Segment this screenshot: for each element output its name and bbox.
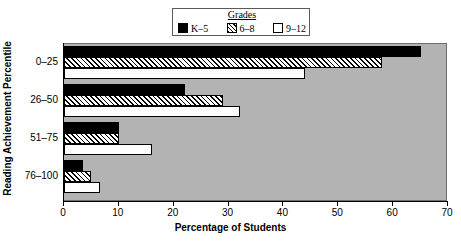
bar bbox=[64, 160, 83, 171]
chart-legend: Grades K–5 6–8 9–12 bbox=[172, 8, 310, 36]
x-tick-mark bbox=[337, 202, 338, 206]
x-tick-mark bbox=[392, 202, 393, 206]
legend-entry-6-8: 6–8 bbox=[227, 23, 255, 34]
x-axis-label: Percentage of Students bbox=[0, 222, 461, 233]
x-tick-label: 20 bbox=[153, 207, 193, 218]
legend-swatch-solid-icon bbox=[178, 23, 188, 33]
bar bbox=[64, 171, 91, 182]
legend-entry-list: K–5 6–8 9–12 bbox=[178, 21, 306, 35]
y-axis-label: Reading Achievement Percentile bbox=[2, 39, 13, 199]
plot-area bbox=[63, 43, 447, 201]
bar-group bbox=[64, 122, 446, 158]
x-tick-mark bbox=[447, 202, 448, 206]
x-tick-label: 30 bbox=[208, 207, 248, 218]
legend-label-9-12: 9–12 bbox=[286, 23, 306, 34]
bar bbox=[64, 106, 240, 117]
bar bbox=[64, 122, 119, 133]
x-tick-label: 0 bbox=[43, 207, 83, 218]
x-tick-label: 70 bbox=[427, 207, 461, 218]
x-tick-label: 50 bbox=[317, 207, 357, 218]
legend-entry-k-5: K–5 bbox=[178, 23, 208, 34]
bar-chart-figure: Grades K–5 6–8 9–12 010203040506070 0–25… bbox=[0, 0, 461, 247]
legend-swatch-hatch-icon bbox=[227, 23, 237, 33]
y-axis-line bbox=[63, 43, 64, 202]
legend-title: Grades bbox=[173, 9, 311, 20]
x-tick-mark bbox=[282, 202, 283, 206]
bar bbox=[64, 68, 305, 79]
bar-group bbox=[64, 84, 446, 120]
legend-label-6-8: 6–8 bbox=[240, 23, 255, 34]
bar bbox=[64, 95, 223, 106]
x-tick-label: 40 bbox=[262, 207, 302, 218]
bar bbox=[64, 182, 100, 193]
bar bbox=[64, 57, 382, 68]
x-tick-mark bbox=[118, 202, 119, 206]
x-tick-mark bbox=[228, 202, 229, 206]
bar bbox=[64, 133, 119, 144]
x-tick-label: 60 bbox=[372, 207, 412, 218]
x-tick-label: 10 bbox=[98, 207, 138, 218]
bar bbox=[64, 144, 152, 155]
x-axis-line bbox=[63, 201, 448, 202]
x-tick-mark bbox=[173, 202, 174, 206]
bar bbox=[64, 46, 421, 57]
bar bbox=[64, 84, 185, 95]
bar-group bbox=[64, 46, 446, 82]
legend-swatch-white-icon bbox=[273, 23, 283, 33]
legend-entry-9-12: 9–12 bbox=[273, 23, 306, 34]
x-tick-mark bbox=[63, 202, 64, 206]
bar-group bbox=[64, 160, 446, 196]
legend-label-k-5: K–5 bbox=[191, 23, 208, 34]
